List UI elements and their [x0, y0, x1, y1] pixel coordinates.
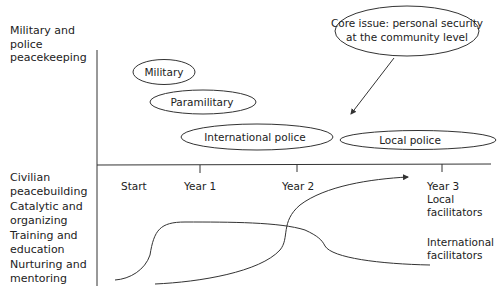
- tick-label-year-2: Year 2: [282, 180, 314, 193]
- military-ellipse: Military: [133, 60, 195, 85]
- international-facilitators-curve: [115, 222, 430, 280]
- diagram-canvas: Military Paramilitary International poli…: [0, 0, 500, 296]
- label-line: International: [427, 236, 494, 249]
- label-line: facilitators: [427, 249, 494, 262]
- paramilitary-ellipse: Paramilitary: [150, 90, 256, 114]
- paramilitary-text: Paramilitary: [170, 96, 233, 108]
- international-police-ellipse: International police: [181, 124, 333, 150]
- core-issue-arrow: [351, 58, 394, 114]
- international-facilitators-label: International facilitators: [427, 236, 494, 262]
- timeline-axis: [97, 164, 491, 165]
- core-issue-text-line2: at the community level: [346, 31, 468, 43]
- local-police-ellipse: Local police: [340, 131, 496, 150]
- military-text: Military: [145, 66, 184, 78]
- label-line: Local: [427, 193, 483, 206]
- core-issue-text-line1: Core issue: personal security: [331, 17, 483, 29]
- local-facilitators-label: Local facilitators: [427, 193, 483, 219]
- tick-label-year-1: Year 1: [184, 180, 216, 193]
- local-facilitators-curve: [155, 177, 408, 284]
- international-police-text: International police: [204, 131, 306, 143]
- label-line: facilitators: [427, 206, 483, 219]
- core-issue-ellipse: Core issue: personal security at the com…: [331, 6, 483, 56]
- tick-label-start: Start: [121, 180, 147, 193]
- local-police-text: Local police: [379, 134, 441, 146]
- tick-label-year-3: Year 3: [427, 180, 459, 193]
